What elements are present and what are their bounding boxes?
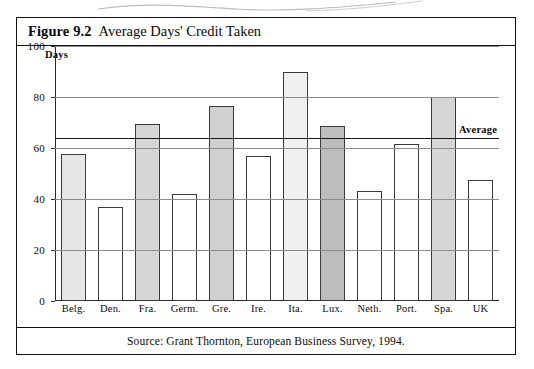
gridline-60 — [55, 148, 499, 149]
x-tick-den: Den. — [92, 303, 129, 327]
y-tickmark-40 — [51, 199, 55, 200]
gridline-40 — [55, 199, 499, 200]
bar-series — [55, 46, 499, 301]
bar-ita[interactable] — [283, 72, 308, 302]
chart-grid: Average — [55, 46, 499, 301]
figure-title: Average Days' Credit Taken — [99, 23, 262, 40]
x-tick-port: Port. — [388, 303, 425, 327]
y-tick-60: 60 — [19, 142, 45, 154]
source-text: Source: Grant Thornton, European Busines… — [127, 335, 405, 347]
bar-lux[interactable] — [320, 126, 345, 301]
x-tick-ire: Ire. — [240, 303, 277, 327]
source-bar: Source: Grant Thornton, European Busines… — [17, 327, 515, 354]
gridline-80 — [55, 97, 499, 98]
bar-slot-ita — [277, 46, 314, 301]
bar-port[interactable] — [394, 144, 419, 301]
x-tick-gre: Gre. — [203, 303, 240, 327]
y-tick-0: 0 — [19, 295, 45, 307]
y-tickmark-80 — [51, 97, 55, 98]
bar-slot-belg — [55, 46, 92, 301]
bar-slot-neth — [351, 46, 388, 301]
figure-title-bar: Figure 9.2 Average Days' Credit Taken — [17, 18, 515, 46]
bar-germ[interactable] — [172, 194, 197, 301]
average-line — [55, 138, 499, 139]
y-tickmark-0 — [51, 301, 55, 302]
bar-neth[interactable] — [357, 191, 382, 301]
x-tick-neth: Neth. — [351, 303, 388, 327]
x-tick-germ: Germ. — [166, 303, 203, 327]
y-tick-80: 80 — [19, 91, 45, 103]
bar-slot-fra — [129, 46, 166, 301]
x-tick-lux: Lux. — [314, 303, 351, 327]
bar-slot-port — [388, 46, 425, 301]
gridline-20 — [55, 250, 499, 251]
figure-box: Figure 9.2 Average Days' Credit Taken Da… — [16, 17, 516, 355]
x-tick-ita: Ita. — [277, 303, 314, 327]
x-tick-uk: UK — [462, 303, 499, 327]
y-axis-tick-labels: 020406080100 — [17, 46, 45, 329]
y-tickmark-100 — [51, 46, 55, 47]
bar-slot-uk — [462, 46, 499, 301]
scan-edge-artifact — [96, 0, 426, 16]
y-tick-100: 100 — [19, 40, 45, 52]
gridline-100 — [55, 46, 499, 47]
bar-slot-gre — [203, 46, 240, 301]
average-label: Average — [459, 124, 497, 135]
bar-belg[interactable] — [61, 154, 86, 301]
plot-area: Days 020406080100 Average Belg.Den.Fra.G… — [17, 46, 515, 329]
bar-slot-den — [92, 46, 129, 301]
bar-slot-lux — [314, 46, 351, 301]
bar-ire[interactable] — [246, 156, 271, 301]
x-tick-fra: Fra. — [129, 303, 166, 327]
y-tickmark-60 — [51, 148, 55, 149]
bar-den[interactable] — [98, 207, 123, 301]
x-tick-belg: Belg. — [55, 303, 92, 327]
bar-fra[interactable] — [135, 124, 160, 301]
y-tick-40: 40 — [19, 193, 45, 205]
figure-number: Figure 9.2 — [28, 23, 92, 40]
y-tickmark-20 — [51, 250, 55, 251]
x-axis-tick-labels: Belg.Den.Fra.Germ.Gre.Ire.Ita.Lux.Neth.P… — [55, 303, 499, 327]
bar-gre[interactable] — [209, 106, 234, 301]
bar-slot-spa — [425, 46, 462, 301]
bar-slot-germ — [166, 46, 203, 301]
bar-slot-ire — [240, 46, 277, 301]
y-tick-20: 20 — [19, 244, 45, 256]
x-tick-spa: Spa. — [425, 303, 462, 327]
